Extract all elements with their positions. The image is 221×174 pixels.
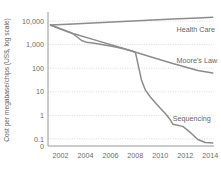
y-tick-label: 100 <box>32 64 44 73</box>
x-tick-label: 2006 <box>102 151 118 160</box>
x-tick-label: 2002 <box>52 151 68 160</box>
x-tick-label: 2012 <box>177 151 193 160</box>
line-chart: 10,0001,0001001010.10 200220042006200820… <box>0 0 221 174</box>
series-label-moore-s-law: Moore's Law <box>177 56 218 65</box>
y-tick-label: 1 <box>40 111 44 120</box>
series-label-sequencing: Sequencing <box>173 114 211 123</box>
y-tick-label: 10,000 <box>22 17 44 26</box>
x-tick-label: 2010 <box>152 151 168 160</box>
series-label-health-care: Health Care <box>177 25 215 34</box>
x-tick-label: 2008 <box>127 151 143 160</box>
y-axis-title: Cost per megabase/chips (US$, log scale) <box>3 18 11 142</box>
x-tick-label: 2004 <box>77 151 93 160</box>
y-tick-label: 10 <box>36 87 44 96</box>
chart-container: 10,0001,0001001010.10 200220042006200820… <box>0 0 221 174</box>
y-tick-label: 0 <box>40 142 44 151</box>
x-tick-label: 2014 <box>202 151 218 160</box>
y-tick-label: 1,000 <box>26 40 44 49</box>
